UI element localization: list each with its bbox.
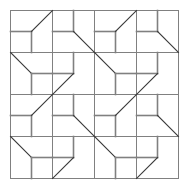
pattern-canvas (0, 0, 189, 190)
pattern-cell (137, 137, 158, 179)
cell-diagonal-segment (74, 32, 95, 53)
cell-diagonal-segment (53, 74, 74, 95)
cell-diagonal-segment (11, 137, 32, 158)
cell-diagonal-segment (158, 116, 179, 137)
pattern-cell (11, 137, 53, 179)
pattern-figure (0, 0, 189, 190)
cell-diagonal-segment (95, 137, 116, 158)
cell-diagonal-segment (74, 116, 95, 137)
pattern-cell (11, 95, 53, 137)
pattern-cell (53, 53, 74, 95)
cell-diagonal-segment (95, 53, 116, 74)
pattern-cell (95, 95, 137, 137)
cell-diagonal-segment (137, 158, 158, 179)
pattern-cell (95, 137, 137, 179)
pattern-frame (11, 11, 179, 179)
cell-diagonal-segment (11, 53, 32, 74)
cell-diagonal-segment (53, 158, 74, 179)
cell-diagonal-segment (158, 32, 179, 53)
pattern-cell (53, 11, 95, 53)
cell-diagonal-segment (32, 95, 53, 116)
pattern-cell (95, 53, 137, 95)
pattern-cell (11, 53, 53, 95)
cell-diagonal-segment (116, 11, 137, 32)
pattern-cell (137, 11, 179, 53)
pattern-cell (137, 95, 179, 137)
pattern-cell (137, 53, 158, 95)
pattern-cell (95, 11, 137, 53)
pattern-cell (11, 11, 53, 53)
cell-diagonal-segment (137, 74, 158, 95)
cell-diagonal-segment (116, 95, 137, 116)
pattern-cell (53, 95, 95, 137)
pattern-cell (53, 137, 74, 179)
cell-diagonal-segment (32, 11, 53, 32)
